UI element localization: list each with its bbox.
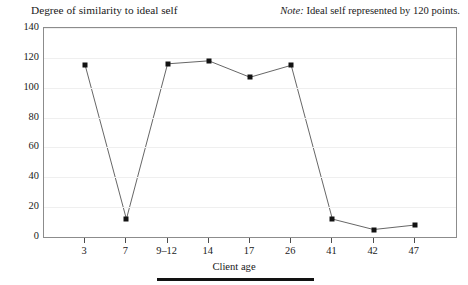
data-point: [206, 58, 211, 63]
gridline: [44, 177, 456, 178]
y-axis: 020406080100120140: [0, 27, 39, 238]
y-tick-label: 140: [5, 22, 39, 32]
data-point: [371, 227, 376, 232]
x-tick-label: 7: [123, 245, 128, 257]
gridline: [44, 207, 456, 208]
x-tick: [249, 238, 250, 243]
x-tick: [331, 238, 332, 243]
data-point: [330, 217, 335, 222]
gridline: [44, 88, 456, 89]
chart-note: Note: Ideal self represented by 120 poin…: [280, 4, 460, 17]
y-tick-label: 0: [5, 231, 39, 241]
x-tick-label: 14: [203, 245, 213, 257]
data-point: [165, 61, 170, 66]
gridline: [44, 58, 456, 59]
series-line: [44, 28, 456, 237]
gridline: [44, 118, 456, 119]
data-point: [248, 75, 253, 80]
plot-area: [43, 27, 457, 238]
x-tick-label: 3: [82, 245, 87, 257]
x-tick-label: 26: [285, 245, 295, 257]
y-tick-label: 80: [5, 112, 39, 122]
data-point: [289, 63, 294, 68]
x-tick: [208, 238, 209, 243]
x-tick-label: 42: [367, 245, 377, 257]
data-point: [124, 217, 129, 222]
y-tick-label: 100: [5, 82, 39, 92]
y-tick-label: 60: [5, 141, 39, 151]
note-label: Note:: [280, 5, 304, 16]
x-tick: [125, 238, 126, 243]
y-tick-label: 120: [5, 52, 39, 62]
x-tick: [84, 238, 85, 243]
x-tick-label: 41: [326, 245, 336, 257]
x-tick: [167, 238, 168, 243]
x-tick-label: 17: [244, 245, 254, 257]
chart-figure: Degree of similarity to ideal self Note:…: [0, 0, 468, 285]
x-tick-label: 9–12: [156, 245, 177, 257]
bottom-rule: [157, 278, 314, 281]
y-tick-label: 20: [5, 201, 39, 211]
chart-header: Degree of similarity to ideal self Note:…: [0, 0, 468, 22]
y-tick-label: 40: [5, 171, 39, 181]
x-tick: [290, 238, 291, 243]
x-axis-title: Client age: [0, 261, 468, 273]
data-point: [412, 223, 417, 228]
note-text: Ideal self represented by 120 points.: [304, 5, 460, 16]
x-tick: [414, 238, 415, 243]
data-point: [83, 63, 88, 68]
x-tick: [373, 238, 374, 243]
gridline: [44, 147, 456, 148]
x-tick-label: 47: [409, 245, 419, 257]
y-axis-title: Degree of similarity to ideal self: [31, 4, 178, 17]
gridline: [44, 28, 456, 29]
